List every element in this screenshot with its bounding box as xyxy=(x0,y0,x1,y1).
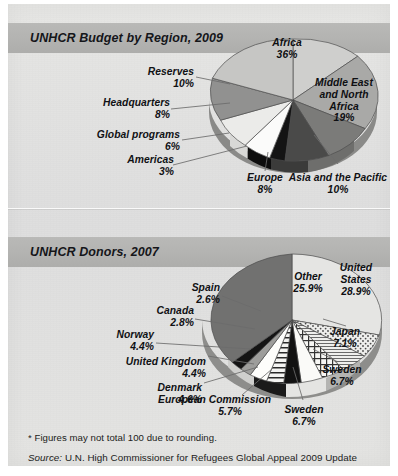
pie-label-reserves-value: 10% xyxy=(86,78,194,90)
pie-label-mena-line2: and North xyxy=(319,89,368,100)
pie-label-other-name: Other xyxy=(294,271,322,282)
pie-label-asia-pacific-name: Asia and the Pacific xyxy=(289,172,387,183)
pie-label-reserves: Reserves 10% xyxy=(86,66,194,89)
pie-label-united-kingdom-name: United Kingdom xyxy=(126,356,206,367)
chart-title-donors: UNHCR Donors, 2007 xyxy=(30,245,159,259)
pie-label-global-programs: Global programs 6% xyxy=(48,129,180,152)
pie-label-asia-pacific-value: 10% xyxy=(286,184,390,196)
pie-label-netherlands: European Commission 5.7% xyxy=(158,394,242,417)
pie-label-canada-value: 2.8% xyxy=(102,317,194,329)
pie-label-united-kingdom: United Kingdom 4.4% xyxy=(60,356,206,379)
pie-label-united-states: United States 28.9% xyxy=(323,262,389,298)
pie-label-spain-name: Spain xyxy=(192,282,220,293)
pie-label-asia-pacific: Asia and the Pacific 10% xyxy=(286,172,390,195)
pie-label-americas-value: 3% xyxy=(86,166,174,178)
pie-label-headquarters-value: 8% xyxy=(50,109,170,121)
pie-label-americas: Americas 3% xyxy=(86,154,174,177)
rounding-footnote: * Figures may not total 100 due to round… xyxy=(28,432,217,443)
pie-label-norway-value: 4.4% xyxy=(68,341,154,353)
pie-label-americas-name: Americas xyxy=(127,154,174,165)
scanned-paper-area: UNHCR Budget by Region, 2009 xyxy=(8,4,390,466)
chart-panel-budget-by-region: UNHCR Budget by Region, 2009 xyxy=(8,4,390,208)
pie-label-spain: Spain 2.6% xyxy=(128,282,220,305)
pie-label-global-programs-name: Global programs xyxy=(97,129,180,140)
pie-label-sweden-value: 6.7% xyxy=(304,376,380,388)
pie-svg-donors xyxy=(194,232,390,418)
pie-label-africa-name: Africa xyxy=(272,37,302,48)
pie-label-us-value: 28.9% xyxy=(323,286,389,298)
pie-label-european-commission-name: Sweden xyxy=(284,404,323,415)
pie-label-mena-line1: Middle East xyxy=(315,77,373,88)
pie-label-norway: Norway 4.4% xyxy=(68,329,154,352)
pie-label-denmark-name: Denmark xyxy=(158,382,202,393)
pie-label-reserves-name: Reserves xyxy=(148,66,194,77)
pie-label-headquarters-name: Headquarters xyxy=(103,97,170,108)
pie-label-africa: Africa 36% xyxy=(244,37,330,60)
pie-label-canada: Canada 2.8% xyxy=(102,305,194,328)
pie-label-us-line1: United xyxy=(340,262,372,273)
pie-label-mena-line3: Africa xyxy=(329,101,359,112)
pie-label-japan-value: 7.1% xyxy=(312,338,378,350)
pie-label-sweden: Sweden 6.7% xyxy=(304,364,380,387)
pie-label-netherlands-value: 5.7% xyxy=(158,406,242,418)
pie-label-global-programs-value: 6% xyxy=(48,141,180,153)
pie-label-mena-value: 19% xyxy=(300,112,388,124)
pie-label-middle-east-north-africa: Middle East and North Africa 19% xyxy=(300,77,388,124)
pie-label-japan: Japan 7.1% xyxy=(312,326,378,349)
pie-label-japan-name: Japan xyxy=(330,326,360,337)
pie-label-us-line2: States xyxy=(340,274,371,285)
pie-label-norway-name: Norway xyxy=(117,329,155,340)
pie-label-european-commission-value: 6.7% xyxy=(240,416,368,428)
source-keyword: Source: xyxy=(28,452,62,463)
pie-label-european-commission: Sweden 6.7% xyxy=(240,404,368,427)
pie-label-canada-name: Canada xyxy=(157,305,195,316)
source-text: U.N. High Commissioner for Refugees Glob… xyxy=(65,452,357,463)
chart-title-budget: UNHCR Budget by Region, 2009 xyxy=(30,31,223,45)
pie-label-spain-value: 2.6% xyxy=(128,294,220,306)
pie-chart-donors xyxy=(194,232,390,418)
figure-page: UNHCR Budget by Region, 2009 xyxy=(0,0,398,476)
pie-label-united-kingdom-value: 4.4% xyxy=(60,368,206,380)
pie-label-europe-name: Europe xyxy=(247,172,283,183)
pie-label-africa-value: 36% xyxy=(244,49,330,61)
source-line: Source: U.N. High Commissioner for Refug… xyxy=(28,452,357,463)
pie-label-sweden-name: Sweden xyxy=(322,364,361,375)
pie-label-headquarters: Headquarters 8% xyxy=(50,97,170,120)
